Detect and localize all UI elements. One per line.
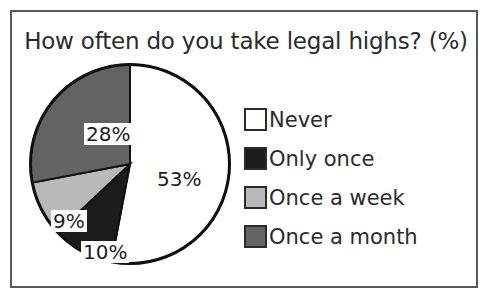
legend-swatch-icon [244, 186, 267, 209]
legend-item-label: Never [269, 108, 332, 132]
legend-item-label: Once a month [269, 225, 418, 249]
legend-item-once-a-month: Once a month [244, 217, 480, 256]
chart-title: How often do you take legal highs? (%) [12, 26, 480, 56]
chart-frame: How often do you take legal highs? (%) 5… [10, 10, 478, 288]
pie-chart-svg [29, 63, 231, 265]
legend-item-only-once: Only once [244, 139, 480, 178]
pie-label-once-a-month: 28% [84, 123, 132, 145]
pie-label-once-a-week: 9% [51, 210, 87, 232]
pie-label-never: 53% [157, 168, 201, 190]
legend-swatch-icon [244, 147, 267, 170]
legend-item-label: Once a week [269, 186, 405, 210]
legend-swatch-icon [244, 108, 267, 131]
legend-swatch-icon [244, 225, 267, 248]
legend-item-once-a-week: Once a week [244, 178, 480, 217]
chart-screenshot: How often do you take legal highs? (%) 5… [0, 0, 492, 297]
legend-item-label: Only once [269, 147, 374, 171]
chart-legend: Never Only once Once a week Once a month [244, 100, 480, 256]
pie-label-only-once: 10% [81, 241, 129, 263]
pie-chart: 53% 28% 9% 10% [29, 63, 231, 265]
legend-item-never: Never [244, 100, 480, 139]
